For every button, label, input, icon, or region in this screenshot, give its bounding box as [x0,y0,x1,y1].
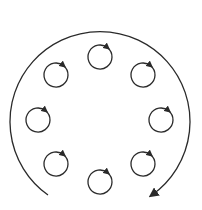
rotation-circle-top [88,45,112,69]
rotation-diagram [0,0,202,210]
diagram-canvas [0,0,202,210]
rotation-circle-bottom-right [131,152,155,176]
rotation-circle-left [26,108,50,132]
rotation-circle-top-right [131,63,155,87]
rotation-circle-bottom-left [44,152,68,176]
rotation-circle-top-left [44,63,68,87]
rotation-circle-bottom [88,170,112,194]
small-rotation-circles [26,45,173,194]
rotation-circle-right [149,108,173,132]
